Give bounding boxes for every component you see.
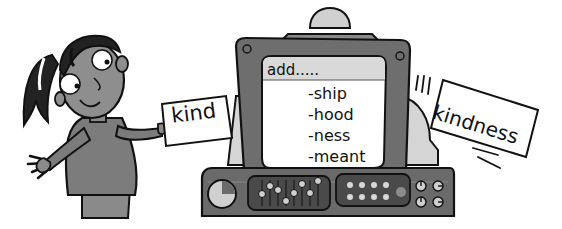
illustration-scene: add..... -ship -hood -ness -meant kind k… [0, 0, 562, 229]
suffix-ship: -ship [308, 84, 347, 103]
suffix-meant: -meant [308, 147, 365, 166]
screen-header: add..... [267, 61, 319, 79]
girl-figure [24, 36, 168, 218]
suffix-ness: -ness [308, 126, 350, 145]
suffix-hood: -hood [308, 105, 354, 124]
